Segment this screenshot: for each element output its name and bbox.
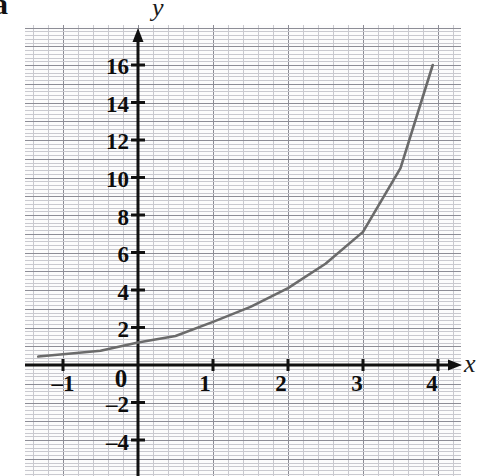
y-tick-label-16: 16: [81, 55, 129, 78]
y-tick-label-4: 4: [81, 281, 129, 304]
x-tick-label-1: 1: [187, 372, 223, 395]
x-tick-label-2: 2: [263, 372, 299, 395]
y-tick-label-6: 6: [81, 243, 129, 266]
x-tick-label-minus1: –1: [45, 372, 81, 395]
y-tick-label-2: 2: [81, 318, 129, 341]
y-tick-label-–4: –4: [78, 431, 129, 454]
origin-label: 0: [109, 366, 133, 391]
y-tick-label-–2: –2: [78, 393, 129, 416]
y-tick-label-14: 14: [81, 93, 129, 116]
y-tick-label-10: 10: [81, 168, 129, 191]
plot-overlay: [0, 0, 479, 476]
y-tick-label-8: 8: [81, 206, 129, 229]
x-tick-label-3: 3: [339, 372, 375, 395]
x-tick-label-4: 4: [414, 372, 450, 395]
y-tick-label-12: 12: [81, 130, 129, 153]
graph-figure: a y x 161412108642–2–40–11234: [0, 0, 479, 476]
